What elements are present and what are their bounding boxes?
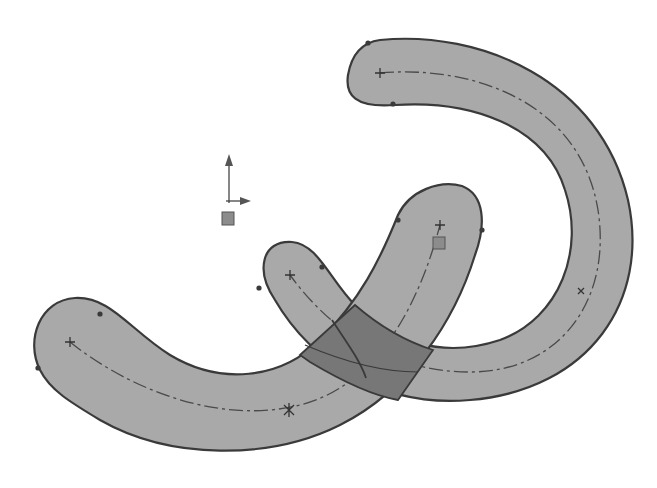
point [256, 285, 261, 290]
origin-square-icon [222, 212, 234, 225]
point [97, 311, 102, 316]
point [390, 101, 395, 106]
point [35, 365, 40, 370]
point [395, 217, 400, 222]
point [319, 264, 324, 269]
slot-arc-left[interactable] [34, 184, 482, 450]
arc-center-square-icon[interactable] [433, 237, 445, 249]
origin-triad-icon[interactable] [222, 154, 251, 225]
point [365, 40, 370, 45]
point [479, 227, 484, 232]
sketch-canvas[interactable]: Sketch - overlapping slots [0, 0, 657, 488]
